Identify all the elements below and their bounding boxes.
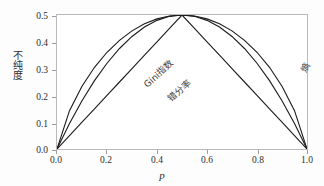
x-tick-mark	[157, 150, 158, 154]
y-tick-label: 0.1	[36, 120, 48, 130]
x-axis-title: p	[0, 169, 324, 181]
y-axis-title: 不纯度	[6, 50, 24, 80]
x-tick-mark	[56, 150, 57, 154]
x-tick-label: 1.0	[301, 156, 313, 166]
plot-area: Gini指数 错分率 熵	[56, 14, 308, 150]
x-tick-label: 0.8	[252, 156, 264, 166]
x-tick-label: 0.0	[50, 156, 62, 166]
y-tick-label: 0.4	[36, 39, 48, 49]
x-tick-mark	[207, 150, 208, 154]
y-tick-label: 0.5	[36, 12, 48, 22]
chart-figure: 不纯度 0.5 0.4 0.3 0.2 0.1 0.0 0.0 0.2 0.4 …	[0, 0, 324, 186]
y-tick-label: 0.3	[36, 66, 48, 76]
x-tick-label: 0.2	[100, 156, 112, 166]
x-tick-mark	[307, 150, 308, 154]
y-tick-label: 0.2	[36, 93, 48, 103]
y-tick-label: 0.0	[36, 146, 48, 156]
x-tick-mark	[106, 150, 107, 154]
x-tick-mark	[258, 150, 259, 154]
x-tick-label: 0.4	[151, 156, 163, 166]
x-tick-label: 0.6	[201, 156, 213, 166]
